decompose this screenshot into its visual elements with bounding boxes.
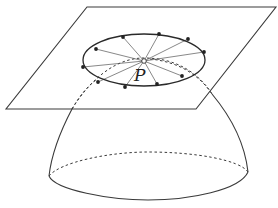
dome-right-outline: [212, 94, 248, 172]
dome-left-outline: [49, 109, 72, 176]
tangent-plane-diagram: P: [0, 0, 278, 208]
dome-base-back: [49, 152, 248, 176]
point-p-label: P: [133, 65, 146, 85]
dome-base-front: [49, 172, 248, 200]
point-p: [142, 59, 147, 64]
